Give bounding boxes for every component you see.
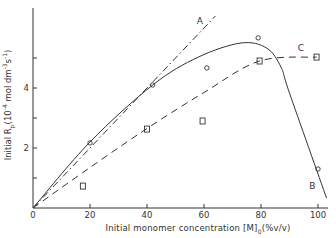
curve-label-c: C <box>298 43 304 53</box>
square-marker <box>200 118 205 124</box>
x-label-text: (%v/v) <box>262 223 291 233</box>
y-label-text: Initial R <box>3 128 13 160</box>
x-tick-label: 100 <box>310 210 326 220</box>
y-label-sup: -3 <box>1 63 8 69</box>
ticks: 02040608010024 <box>24 58 327 220</box>
y-label-text: s <box>3 59 13 63</box>
series-markers <box>80 36 320 189</box>
circle-marker <box>256 36 260 40</box>
y-tick-label: 2 <box>24 143 29 153</box>
curve-label-b: B <box>309 181 315 191</box>
y-label-sub: p <box>8 124 15 128</box>
y-axis-label: Initial Rp(10-4 mol dm-3s-1) <box>1 50 15 161</box>
y-tick-label: 4 <box>24 83 29 93</box>
y-label-text: mol dm <box>3 69 13 104</box>
x-tick-label: 40 <box>142 210 153 220</box>
x-tick-label: 20 <box>85 210 96 220</box>
square-marker <box>80 183 85 189</box>
x-tick-label: 80 <box>256 210 267 220</box>
x-tick-label: 60 <box>199 210 210 220</box>
series-lines <box>33 16 327 208</box>
circle-marker <box>205 66 209 70</box>
x-axis-label: Initial monomer concentration [M]0(%v/v) <box>105 223 290 235</box>
chart-canvas: 02040608010024 ABC <box>0 0 336 238</box>
y-label-text: (10 <box>3 110 13 124</box>
curve-a <box>33 16 215 208</box>
y-label-sup: -1 <box>1 53 8 59</box>
x-tick-label: 0 <box>30 210 35 220</box>
curve-c <box>33 57 317 208</box>
y-label-text: ) <box>3 50 13 53</box>
series-annotations: ABC <box>197 16 316 191</box>
y-label-sup: -4 <box>1 104 8 110</box>
x-label-text: Initial monomer concentration [M] <box>105 223 257 233</box>
curve-b <box>33 43 327 208</box>
curve-label-a: A <box>197 16 204 26</box>
axes <box>33 8 328 208</box>
